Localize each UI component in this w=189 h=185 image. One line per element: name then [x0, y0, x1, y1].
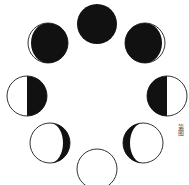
moon-phase-diagram	[0, 0, 189, 185]
waning-gibbous-icon	[30, 123, 70, 163]
first-quarter-icon	[147, 76, 187, 116]
figure-caption: 第图	[177, 124, 184, 136]
waning-crescent-icon	[28, 23, 68, 63]
waxing-gibbous-icon	[123, 123, 163, 163]
new-moon-icon	[77, 4, 117, 44]
last-quarter-icon	[7, 76, 47, 116]
waxing-crescent-icon	[125, 23, 165, 63]
full-moon-icon	[77, 149, 117, 185]
